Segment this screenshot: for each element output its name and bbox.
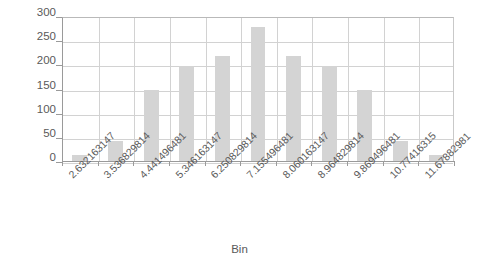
bar	[215, 56, 230, 162]
bar	[322, 66, 337, 162]
x-axis-tick-mark	[240, 161, 241, 166]
x-axis-tick-mark	[62, 161, 63, 166]
x-axis-tick-mark	[205, 161, 206, 166]
y-axis-tick-mark	[56, 17, 62, 18]
y-axis-tick-label: 100	[18, 104, 56, 114]
y-axis-tick-label: 150	[18, 80, 56, 90]
bar	[179, 66, 194, 162]
x-axis-tick-mark	[169, 161, 170, 166]
x-axis-tick-labels: 2.6321631473.5368298144.4414964815.34616…	[0, 166, 479, 236]
y-axis-tick-label: 50	[18, 128, 56, 138]
x-axis-tick-mark	[133, 161, 134, 166]
x-axis-tick-mark	[98, 161, 99, 166]
x-axis-tick-mark	[383, 161, 384, 166]
x-axis-tick-mark	[347, 161, 348, 166]
y-axis-tick-labels: 050100150200250300	[18, 12, 56, 162]
x-axis-tick-mark	[454, 161, 455, 166]
histogram-chart: Frequency 050100150200250300 2.632163147…	[0, 0, 479, 267]
y-axis-tick-label: 300	[18, 7, 56, 17]
x-axis-title: Bin	[0, 243, 479, 255]
x-axis-tick-mark	[276, 161, 277, 166]
y-axis-tick-label: 250	[18, 31, 56, 41]
x-axis-tick-mark	[418, 161, 419, 166]
y-axis-tick-mark	[56, 138, 62, 139]
y-axis-tick-mark	[56, 90, 62, 91]
x-axis-tick-mark	[311, 161, 312, 166]
y-axis-tick-mark	[56, 41, 62, 42]
bar	[286, 56, 301, 162]
y-axis-tick-mark	[56, 114, 62, 115]
y-axis-tick-mark	[56, 65, 62, 66]
y-axis-tick-label: 0	[18, 152, 56, 162]
y-axis-tick-label: 200	[18, 55, 56, 65]
